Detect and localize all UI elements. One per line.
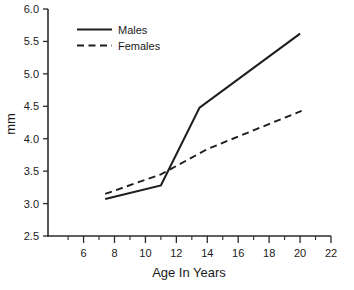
line-chart: 2.53.03.54.04.55.05.56.0 681012141618202…	[0, 0, 354, 290]
series-line-males	[105, 34, 300, 199]
series-group	[105, 34, 301, 199]
y-axis-title: mm	[3, 113, 18, 135]
x-tick-label: 14	[201, 247, 213, 259]
series-line-females	[105, 111, 301, 194]
legend: Males Females	[77, 24, 161, 52]
x-axis-title: Age In Years	[152, 265, 226, 280]
legend-label-females: Females	[118, 40, 161, 52]
y-tick-label: 4.0	[24, 133, 39, 145]
x-axis-major-ticks	[84, 236, 331, 243]
y-tick-label: 4.5	[24, 100, 39, 112]
x-axis-tick-labels: 6810121416182022	[81, 247, 338, 259]
x-tick-label: 8	[111, 247, 117, 259]
chart-canvas: 2.53.03.54.04.55.05.56.0 681012141618202…	[0, 0, 354, 290]
y-tick-label: 2.5	[24, 230, 39, 242]
x-tick-label: 10	[139, 247, 151, 259]
x-tick-label: 12	[170, 247, 182, 259]
x-tick-label: 18	[263, 247, 275, 259]
x-tick-label: 22	[325, 247, 337, 259]
y-tick-label: 5.5	[24, 35, 39, 47]
x-tick-label: 20	[294, 247, 306, 259]
y-tick-label: 3.0	[24, 198, 39, 210]
x-tick-label: 6	[81, 247, 87, 259]
x-tick-label: 16	[232, 247, 244, 259]
y-axis-tick-labels: 2.53.03.54.04.55.05.56.0	[24, 3, 39, 242]
y-tick-label: 5.0	[24, 68, 39, 80]
y-tick-label: 3.5	[24, 165, 39, 177]
legend-label-males: Males	[118, 24, 148, 36]
y-tick-label: 6.0	[24, 3, 39, 15]
